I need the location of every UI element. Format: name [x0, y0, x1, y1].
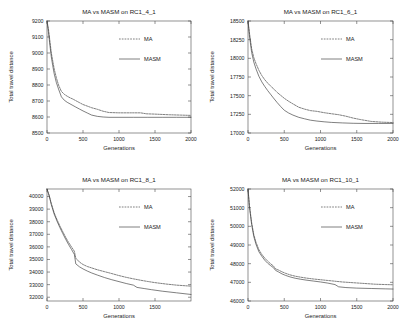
chart-svg-1: MA vs MASM on RC1_6_11700017250175001775…: [201, 0, 403, 168]
y-tick-label: 17250: [230, 111, 245, 117]
series-line-masm: [47, 21, 191, 117]
x-tick-label: 0: [46, 136, 49, 142]
series-line-masm: [248, 21, 393, 123]
y-tick-label: 46000: [230, 298, 245, 304]
x-tick-label: 1000: [315, 304, 327, 310]
x-axis-label: Generations: [103, 313, 135, 319]
y-tick-label: 50000: [230, 223, 245, 229]
y-tick-label: 8600: [32, 114, 44, 120]
y-axis-label: Total travel distance: [8, 51, 14, 102]
series-line-masm: [248, 189, 393, 289]
x-tick-label: 1000: [315, 136, 327, 142]
series-line-ma: [248, 189, 393, 285]
chart-panel-rc1-6-1: MA vs MASM on RC1_6_11700017250175001775…: [201, 0, 403, 168]
x-axis-label: Generations: [305, 313, 337, 319]
legend-label-ma: MA: [144, 204, 153, 210]
legend-label-masm: MASM: [144, 224, 161, 230]
x-tick-label: 1000: [113, 136, 125, 142]
y-tick-label: 39000: [29, 206, 44, 212]
x-axis-label: Generations: [103, 145, 135, 151]
x-tick-label: 0: [46, 304, 49, 310]
series-line-ma: [248, 21, 393, 123]
y-tick-label: 9000: [32, 50, 44, 56]
y-tick-label: 36000: [29, 244, 44, 250]
legend-label-ma: MA: [346, 36, 355, 42]
y-tick-label: 8900: [32, 66, 44, 72]
x-tick-label: 500: [79, 304, 88, 310]
y-tick-label: 51000: [230, 205, 245, 211]
x-tick-label: 2000: [387, 136, 399, 142]
chart-svg-3: MA vs MASM on RC1_10_1460004700048000490…: [201, 168, 403, 336]
y-tick-label: 18000: [230, 55, 245, 61]
y-tick-label: 8800: [32, 82, 44, 88]
y-tick-label: 17000: [230, 130, 245, 136]
x-axis-label: Generations: [305, 145, 337, 151]
y-tick-label: 34000: [29, 269, 44, 275]
y-tick-label: 9200: [32, 18, 44, 24]
y-tick-label: 17750: [230, 74, 245, 80]
y-tick-label: 33000: [29, 282, 44, 288]
legend-label-ma: MA: [346, 204, 355, 210]
y-axis-label: Total travel distance: [209, 219, 215, 270]
y-tick-label: 8500: [32, 130, 44, 136]
y-tick-label: 18250: [230, 37, 245, 43]
legend-label-masm: MASM: [346, 224, 363, 230]
x-tick-label: 500: [280, 136, 289, 142]
y-tick-label: 35000: [29, 256, 44, 262]
chart-title: MA vs MASM on RC1_4_1: [82, 8, 156, 15]
series-line-ma: [47, 189, 191, 286]
x-tick-label: 1500: [351, 136, 363, 142]
x-tick-label: 0: [247, 304, 250, 310]
legend-label-masm: MASM: [346, 56, 363, 62]
y-tick-label: 52000: [230, 186, 245, 192]
x-tick-label: 500: [79, 136, 88, 142]
chart-panel-rc1-8-1: MA vs MASM on RC1_8_13200033000340003500…: [0, 168, 201, 336]
y-axis-label: Total travel distance: [209, 51, 215, 102]
y-tick-label: 18500: [230, 18, 245, 24]
y-tick-label: 32000: [29, 294, 44, 300]
x-tick-label: 1500: [149, 304, 161, 310]
x-tick-label: 1000: [113, 304, 125, 310]
plot-frame: [47, 21, 191, 133]
legend-label-masm: MASM: [144, 56, 161, 62]
y-tick-label: 49000: [230, 242, 245, 248]
x-tick-label: 1500: [351, 304, 363, 310]
x-tick-label: 2000: [387, 304, 399, 310]
chart-title: MA vs MASM on RC1_6_1: [284, 8, 358, 15]
figure-panel-grid: MA vs MASM on RC1_4_18500860087008800890…: [0, 0, 403, 336]
chart-title: MA vs MASM on RC1_8_1: [82, 176, 156, 183]
y-tick-label: 38000: [29, 219, 44, 225]
y-tick-label: 40000: [29, 193, 44, 199]
legend-label-ma: MA: [144, 36, 153, 42]
y-tick-label: 48000: [230, 261, 245, 267]
x-tick-label: 2000: [185, 136, 197, 142]
x-tick-label: 0: [247, 136, 250, 142]
y-tick-label: 47000: [230, 279, 245, 285]
plot-frame: [248, 21, 393, 133]
chart-panel-rc1-10-1: MA vs MASM on RC1_10_1460004700048000490…: [201, 168, 403, 336]
series-line-masm: [47, 189, 191, 294]
y-tick-label: 9100: [32, 34, 44, 40]
y-axis-label: Total travel distance: [8, 219, 14, 270]
chart-title: MA vs MASM on RC1_10_1: [282, 176, 360, 183]
chart-svg-0: MA vs MASM on RC1_4_18500860087008800890…: [0, 0, 201, 168]
chart-panel-rc1-4-1: MA vs MASM on RC1_4_18500860087008800890…: [0, 0, 201, 168]
x-tick-label: 500: [280, 304, 289, 310]
y-tick-label: 37000: [29, 231, 44, 237]
chart-svg-2: MA vs MASM on RC1_8_13200033000340003500…: [0, 168, 201, 336]
y-tick-label: 17500: [230, 93, 245, 99]
series-line-ma: [47, 21, 191, 115]
x-tick-label: 1500: [149, 136, 161, 142]
y-tick-label: 8700: [32, 98, 44, 104]
